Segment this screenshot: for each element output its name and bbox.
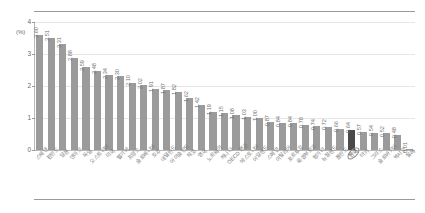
x-label-cell: 멕시코 bbox=[392, 152, 404, 198]
x-label-cell: 미국 bbox=[103, 152, 115, 198]
bar-cell: 1.15 bbox=[219, 22, 231, 150]
x-label-cell: 핀란드 bbox=[46, 152, 58, 198]
bar-value-label: 0.87 bbox=[265, 115, 271, 126]
bar-value-label: 1.00 bbox=[254, 111, 260, 122]
bar-cell: 3.31 bbox=[57, 22, 69, 150]
x-label-cell: 룩셈부르크 bbox=[300, 152, 312, 198]
bar-cell: 2.59 bbox=[80, 22, 92, 150]
bar-value-label: 2.30 bbox=[115, 69, 121, 80]
bar-cell: 0.87 bbox=[265, 22, 277, 150]
bar: 0.87 bbox=[267, 122, 274, 150]
bar: 2.10 bbox=[129, 83, 136, 150]
bar-value-label: 2.88 bbox=[69, 50, 75, 61]
bar-cell: 1.62 bbox=[184, 22, 196, 150]
bar: 2.30 bbox=[117, 76, 124, 150]
y-tick-label: 0 bbox=[27, 147, 31, 154]
bar-cell: 2.34 bbox=[103, 22, 115, 150]
x-label-cell: 오스트리아 bbox=[92, 152, 104, 198]
x-label-cell: 한국 bbox=[346, 152, 358, 198]
bar-value-label: 0.57 bbox=[357, 124, 363, 135]
bar-value-label: 0.52 bbox=[381, 126, 387, 137]
x-label-cell: 덴마크 bbox=[69, 152, 81, 198]
bar-cell: 2.10 bbox=[126, 22, 138, 150]
bar: 1.08 bbox=[232, 115, 239, 150]
bar-value-label: 1.82 bbox=[173, 84, 179, 95]
bar-value-label: 0.74 bbox=[311, 119, 317, 130]
bar: 1.91 bbox=[152, 89, 159, 150]
y-tick-label: 4 bbox=[27, 19, 31, 26]
bar-value-label: 0.84 bbox=[288, 116, 294, 127]
bar-value-label: 0.54 bbox=[369, 125, 375, 136]
bar-cell: 0.48 bbox=[392, 22, 404, 150]
bar-value-label: 0.48 bbox=[392, 127, 398, 138]
x-label-cell: 아이슬란드 bbox=[173, 152, 185, 198]
bar-cell: 0.66 bbox=[334, 22, 346, 150]
x-label-cell: 뉴질랜드 bbox=[323, 152, 335, 198]
bar-value-label: 0.78 bbox=[300, 118, 306, 129]
bottom-divider bbox=[34, 199, 415, 200]
bar-value-label: 0.64 bbox=[346, 122, 352, 133]
bar-cell: 1.19 bbox=[207, 22, 219, 150]
bar-cell: 1.42 bbox=[196, 22, 208, 150]
bar: 1.82 bbox=[175, 92, 182, 150]
bar: 1.62 bbox=[186, 98, 193, 150]
bar-cell: 1.00 bbox=[253, 22, 265, 150]
bar-value-label: 3.60 bbox=[34, 27, 40, 38]
x-label-cell: 벨기에 bbox=[115, 152, 127, 198]
bar: 2.59 bbox=[82, 67, 89, 150]
bar: 3.60 bbox=[36, 35, 43, 150]
bar-series: 3.603.513.312.882.592.482.342.302.102.02… bbox=[34, 22, 415, 150]
y-tick-label: 2 bbox=[27, 83, 31, 90]
x-label-cell: 슬로베니아 bbox=[138, 152, 150, 198]
bar-cell: 0.78 bbox=[300, 22, 312, 150]
bar: 2.34 bbox=[105, 75, 112, 150]
x-label-cell: 슬로바키아 bbox=[380, 152, 392, 198]
bar-cell: 1.03 bbox=[242, 22, 254, 150]
bar-cell: 3.60 bbox=[34, 22, 46, 150]
bar: 3.51 bbox=[48, 38, 55, 150]
bar-value-label: 1.91 bbox=[150, 81, 156, 92]
bar: 2.02 bbox=[140, 85, 147, 150]
bar: 3.31 bbox=[59, 44, 66, 150]
chart-figure: 01234 (%) 3.603.513.312.882.592.482.342.… bbox=[0, 0, 425, 213]
x-label-cell: 체코 bbox=[184, 152, 196, 198]
bar-value-label: 1.62 bbox=[184, 91, 190, 102]
bar-value-label: 1.08 bbox=[230, 108, 236, 119]
bar-value-label: 0.72 bbox=[323, 120, 329, 131]
x-label-cell: 폴란드 bbox=[334, 152, 346, 198]
bar-value-label: 3.51 bbox=[46, 30, 52, 41]
y-axis-unit: (%) bbox=[16, 29, 25, 35]
bar: 1.19 bbox=[209, 112, 216, 150]
bar-cell: 0.01 bbox=[404, 22, 416, 150]
bar: 1.15 bbox=[221, 113, 228, 150]
bar-value-label: 1.15 bbox=[219, 106, 225, 117]
bar-value-label: 2.59 bbox=[80, 60, 86, 71]
bar-cell: 0.84 bbox=[288, 22, 300, 150]
bar-value-label: 1.87 bbox=[161, 83, 167, 94]
bar-value-label: 0.84 bbox=[277, 116, 283, 127]
x-axis-labels: 스웨덴핀란드일본덴마크독일오스트리아미국벨기에프랑스슬로베니아호주네덜란드아이슬… bbox=[34, 152, 415, 198]
bar-cell: 0.52 bbox=[380, 22, 392, 150]
y-tick-label: 3 bbox=[27, 51, 31, 58]
bar: 0.84 bbox=[290, 123, 297, 150]
bar: 1.87 bbox=[163, 90, 170, 150]
bar-cell: 2.88 bbox=[69, 22, 81, 150]
bar-cell: 2.48 bbox=[92, 22, 104, 150]
x-label-cell: 칠레 bbox=[404, 152, 416, 198]
bar-cell: 1.91 bbox=[149, 22, 161, 150]
bar-value-label: 2.02 bbox=[138, 78, 144, 89]
bar: 1.42 bbox=[198, 105, 205, 150]
y-tick-label: 1 bbox=[27, 115, 31, 122]
bar-value-label: 1.03 bbox=[242, 110, 248, 121]
plot-area: 01234 (%) 3.603.513.312.882.592.482.342.… bbox=[34, 22, 415, 150]
x-label-cell: 노르웨이 bbox=[207, 152, 219, 198]
bar: 2.48 bbox=[94, 71, 101, 150]
x-label-cell: 아일랜드 bbox=[253, 152, 265, 198]
bar-cell: 1.82 bbox=[173, 22, 185, 150]
bar-cell: 0.57 bbox=[357, 22, 369, 150]
bar-value-label: 2.10 bbox=[127, 75, 133, 86]
bar-value-label: 0.66 bbox=[334, 121, 340, 132]
bar-value-label: 1.19 bbox=[207, 104, 213, 115]
bar-cell: 0.74 bbox=[311, 22, 323, 150]
bar-value-label: 1.42 bbox=[196, 97, 202, 108]
